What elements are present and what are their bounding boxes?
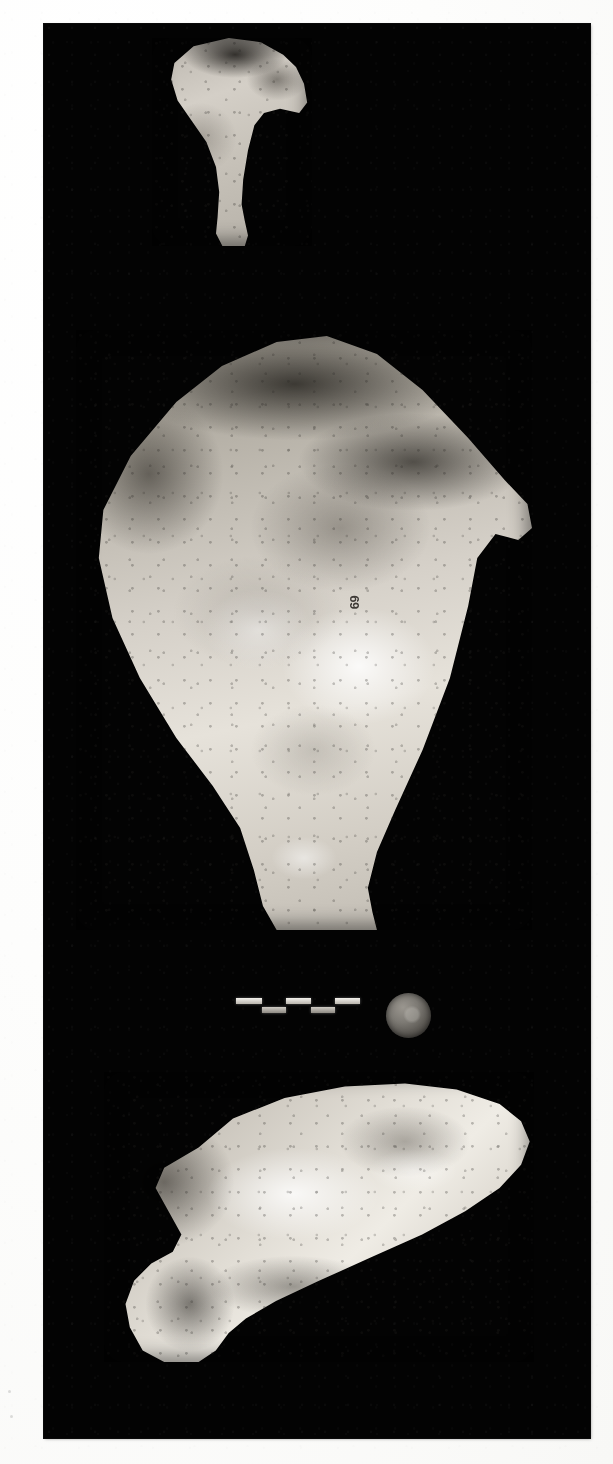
bone-surface [152,38,312,246]
scale-bar-segment-2 [262,1007,286,1013]
specimen-top-scapula [152,38,312,246]
margin-speck-1 [8,1390,11,1393]
specimen-bottom-scapula [104,1072,534,1362]
specimen-main-scapula [76,330,532,930]
bone-surface [76,330,532,930]
scale-bar [236,998,360,1016]
scanned-page: 69 Scanned black-and-white photographic … [0,0,613,1464]
coin-relief-texture [386,993,431,1038]
scale-coin [386,993,431,1038]
bone-surface [104,1072,534,1362]
scale-bar-segment-1 [236,998,262,1004]
catalog-number-label: 69 [348,596,361,609]
margin-speck-2 [10,1415,13,1418]
scale-bar-segment-3 [286,998,311,1004]
scale-bar-segment-5 [335,998,360,1004]
scale-bar-segment-4 [311,1007,335,1013]
